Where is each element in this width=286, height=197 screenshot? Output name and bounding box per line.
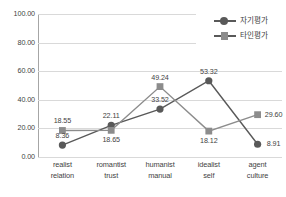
x-axis-category-label: agentculture xyxy=(233,160,282,194)
y-axis-tick-label: 80.00 xyxy=(0,39,35,46)
data-point-label: 22.11 xyxy=(103,113,120,120)
chart-legend: 자기평가 타인평가 xyxy=(196,11,282,47)
y-axis-tick-label: 100.00 xyxy=(0,10,35,17)
y-axis-tick-label: 0.00 xyxy=(0,153,35,160)
line-chart: 0.0020.0040.0060.0080.00100.00 8.3622.11… xyxy=(0,0,286,197)
data-point-marker[interactable] xyxy=(156,105,163,112)
data-point-marker[interactable] xyxy=(108,127,115,134)
legend-item-other-evaluation[interactable]: 타인평가 xyxy=(196,28,282,43)
y-axis-tick-label: 60.00 xyxy=(0,68,35,75)
category-line-1: agent xyxy=(233,160,282,171)
data-point-label: 18.12 xyxy=(200,137,218,144)
category-line-1: realist xyxy=(38,160,87,171)
category-line-1: idealist xyxy=(184,160,233,171)
series-line xyxy=(62,81,257,145)
data-point-label: 8.36 xyxy=(56,132,70,139)
data-point-label: 49.24 xyxy=(151,74,169,81)
category-line-1: romantist xyxy=(87,160,136,171)
category-line-1: humanist xyxy=(136,160,185,171)
x-axis-category-labels: realistrelationromantisttrusthumanistman… xyxy=(38,160,282,194)
data-point-label: 18.55 xyxy=(54,118,72,125)
gridline xyxy=(38,157,282,158)
data-point-label: 18.65 xyxy=(102,137,120,144)
category-line-2: culture xyxy=(233,171,282,182)
data-point-marker[interactable] xyxy=(59,141,66,148)
x-axis-category-label: humanistmanual xyxy=(136,160,185,194)
data-point-marker[interactable] xyxy=(254,141,261,148)
x-axis-category-label: romantisttrust xyxy=(87,160,136,194)
legend-label: 자기평가 xyxy=(240,17,268,25)
data-point-marker[interactable] xyxy=(205,77,212,84)
legend-label: 타인평가 xyxy=(240,32,268,40)
data-point-marker[interactable] xyxy=(205,128,212,135)
category-line-2: relation xyxy=(38,171,87,182)
x-axis-category-label: idealistself xyxy=(184,160,233,194)
category-line-2: self xyxy=(184,171,233,182)
y-axis-tick-labels: 0.0020.0040.0060.0080.00100.00 xyxy=(0,0,35,197)
category-line-2: manual xyxy=(136,171,185,182)
category-line-2: trust xyxy=(87,171,136,182)
square-marker-icon xyxy=(214,30,236,41)
legend-item-self-evaluation[interactable]: 자기평가 xyxy=(196,13,282,28)
data-point-label: 53.32 xyxy=(200,68,218,75)
y-axis-tick-label: 40.00 xyxy=(0,96,35,103)
data-point-label: 29.60 xyxy=(265,111,283,118)
circle-marker-icon xyxy=(214,15,236,26)
data-point-marker[interactable] xyxy=(157,83,164,90)
y-axis-tick-label: 20.00 xyxy=(0,125,35,132)
x-axis-category-label: realistrelation xyxy=(38,160,87,194)
data-point-label: 33.52 xyxy=(151,96,169,103)
data-point-label: 8.91 xyxy=(267,141,281,148)
data-point-marker[interactable] xyxy=(254,111,261,118)
